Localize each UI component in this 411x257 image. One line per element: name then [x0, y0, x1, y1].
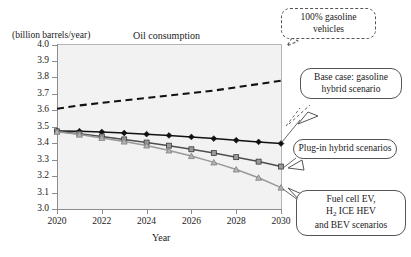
callout-fuel-cell-line2-pre: H	[326, 206, 333, 216]
callout-fuel-cell-line2-post: ICE HEV	[336, 206, 376, 216]
tail-gasoline	[287, 38, 298, 46]
callout-base-case: Base case: gasoline hybrid scenario	[300, 68, 402, 99]
oil-consumption-chart: (billion barrels/year) Oil consumption Y…	[0, 0, 411, 257]
tail-plugin	[288, 160, 304, 170]
tail-base-case	[298, 112, 318, 124]
leader-basecase	[282, 120, 300, 142]
callout-gasoline-vehicles: 100% gasoline vehicles	[281, 8, 376, 39]
leader-gasoline-a	[286, 108, 300, 126]
callout-fuel-cell-line1: Fuel cell EV,	[326, 194, 375, 204]
callout-fuel-cell: Fuel cell EV, H2 ICE HEV and BEV scenari…	[296, 190, 406, 236]
callout-fuel-cell-line3: and BEV scenarios	[315, 220, 388, 230]
callout-plugin-hybrid: Plug-in hybrid scenarios	[293, 139, 397, 159]
